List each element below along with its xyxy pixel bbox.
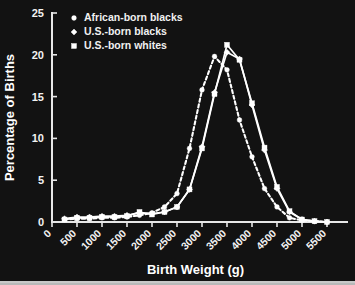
birth-weight-distribution-chart: 0510152025050010001500200025003000350040… [0,0,355,285]
data-point-marker [137,209,142,214]
y-tick-label: 10 [32,132,44,144]
data-point-marker [287,215,292,220]
data-point-marker [287,209,292,214]
y-axis-title: Percentage of Births [2,54,17,181]
data-point-marker [250,101,255,106]
data-point-marker [225,42,230,47]
data-point-marker [262,186,267,191]
y-tick-label: 5 [38,174,44,186]
data-point-marker [175,204,180,209]
data-point-marker [75,215,80,220]
chart-background [0,0,355,285]
legend-label: U.S.-born blacks [84,25,167,37]
data-point-marker [87,215,92,220]
chart-figure: 0510152025050010001500200025003000350040… [0,0,355,285]
data-point-marker [250,154,255,159]
data-point-marker [162,209,167,214]
data-point-marker [212,54,217,59]
data-point-marker [225,67,230,72]
data-point-marker [112,214,117,219]
data-point-marker [187,146,192,151]
data-point-marker [200,88,205,93]
data-point-marker [262,145,267,150]
data-point-marker [100,214,105,219]
legend-marker-square [72,44,77,49]
data-point-marker [150,212,155,217]
data-point-marker [125,214,130,219]
data-point-marker [162,205,167,210]
x-axis-title: Birth Weight (g) [147,262,244,277]
data-point-marker [212,92,217,97]
data-point-marker [175,191,180,196]
data-point-marker [62,217,67,222]
legend-item-1: African-born blacks [72,11,183,23]
data-point-marker [237,118,242,123]
data-point-marker [237,57,242,62]
y-tick-label: 20 [32,49,44,61]
legend-label: African-born blacks [84,11,183,23]
data-point-marker [325,220,330,225]
legend-item-2: U.S.-born blacks [71,25,167,37]
data-point-marker [200,146,205,151]
data-point-marker [187,187,192,192]
data-point-marker [275,205,280,210]
legend-item-3: U.S.-born whites [72,39,167,51]
y-tick-label: 15 [32,91,44,103]
y-tick-label: 0 [38,216,44,228]
data-point-marker [312,219,317,224]
legend-marker-dot [72,16,77,21]
y-tick-label: 25 [32,7,44,19]
data-point-marker [300,217,305,222]
legend-label: U.S.-born whites [84,39,167,51]
data-point-marker [275,184,280,189]
